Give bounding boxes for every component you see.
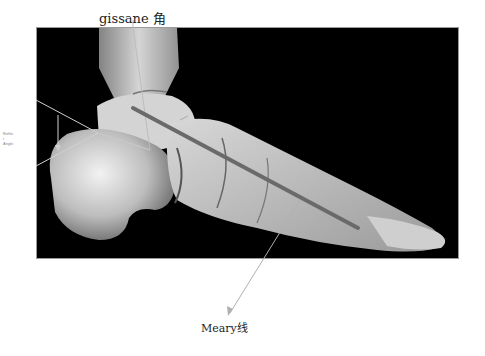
gissane-angle-line (133, 27, 150, 150)
gissane-angle-label: gissane 角 (99, 8, 166, 27)
meary-line-label: Meary线 (201, 319, 248, 335)
meary-pointer-line (230, 200, 300, 313)
meary-line-bar (133, 108, 358, 228)
figure-stage: gissane 角 Meary线 Bohle r Angle (0, 0, 485, 356)
bohler-arrowhead-icon (55, 145, 61, 151)
meary-arrowhead-icon (227, 306, 233, 316)
bohler-angle-lower-line (36, 133, 98, 166)
bohler-label-line: Angle (3, 141, 19, 146)
bohler-angle-label: Bohle r Angle (3, 131, 19, 146)
bohler-angle-tangent-line (98, 133, 150, 150)
bohler-angle-upper-line (36, 100, 98, 133)
annotation-overlay (0, 0, 485, 356)
